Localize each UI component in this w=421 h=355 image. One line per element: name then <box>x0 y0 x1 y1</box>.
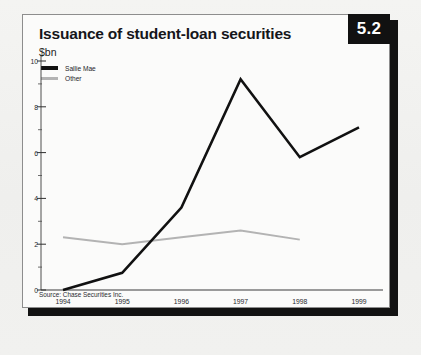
y-tick-label: 10 <box>25 58 38 65</box>
series-line-other <box>63 230 300 244</box>
x-tick-label: 1997 <box>233 298 248 305</box>
y-tick-label: 4 <box>25 195 38 202</box>
panel-body: 5.2 Issuance of student-loan securities … <box>22 14 390 308</box>
y-tick-label: 0 <box>25 287 38 294</box>
y-tick-label: 8 <box>25 103 38 110</box>
line-chart-plot <box>23 15 391 309</box>
x-tick-label: 1995 <box>115 298 130 305</box>
y-tick-label: 6 <box>25 149 38 156</box>
x-tick-label: 1998 <box>292 298 307 305</box>
source-note: Source: Chase Securities Inc. <box>39 291 123 298</box>
x-tick-label: 1994 <box>55 298 70 305</box>
x-tick-label: 1999 <box>351 298 366 305</box>
y-tick-label: 2 <box>25 241 38 248</box>
figure-panel: 5.2 Issuance of student-loan securities … <box>22 14 392 310</box>
x-tick-label: 1996 <box>174 298 189 305</box>
series-line-sallie-mae <box>63 79 359 290</box>
